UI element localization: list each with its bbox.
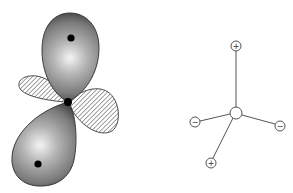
nucleus-dot [64,98,72,106]
charge-label: − [192,118,199,127]
lower-lobe-dot [34,160,41,167]
charge-label: − [277,122,284,131]
upper-lobe-dot [67,34,74,41]
charge-left-negative: − [190,117,200,127]
charge-label: + [233,42,240,51]
bond-left [200,114,230,121]
charge-bottom-positive: + [206,158,216,168]
tetrahedral-charge-diagram: + − − + [190,41,285,168]
positive-lobe-lower [12,102,76,186]
bond-right [242,115,275,124]
center-atom [230,107,242,119]
charge-right-negative: − [275,121,285,131]
charge-label: + [208,159,215,168]
bond-bottom [213,118,233,158]
figure-canvas: + − − + [0,0,293,193]
orbital-lobe-diagram [12,13,118,186]
charge-top-positive: + [231,41,241,51]
